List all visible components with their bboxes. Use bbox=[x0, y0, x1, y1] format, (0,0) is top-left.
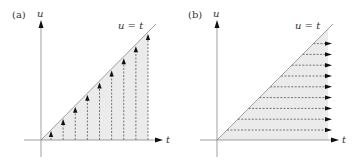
panel-b: (b) u t u = t bbox=[188, 8, 347, 157]
right-arrow-icon bbox=[325, 52, 332, 56]
right-arrow-icon bbox=[325, 74, 332, 78]
right-arrow-icon bbox=[325, 95, 332, 99]
panel-label: (b) bbox=[188, 9, 202, 20]
right-arrow-icon bbox=[325, 106, 332, 110]
u-axis-arrowhead bbox=[215, 20, 220, 28]
right-arrow-icon bbox=[325, 128, 332, 132]
panel-a: (a) u t u = t bbox=[12, 8, 171, 157]
line-label: u = t bbox=[295, 20, 321, 31]
t-axis-label: t bbox=[166, 134, 171, 145]
t-axis-label: t bbox=[342, 134, 347, 145]
panel-label: (a) bbox=[12, 9, 26, 20]
right-arrow-icon bbox=[325, 117, 332, 121]
right-arrow-icon bbox=[325, 41, 332, 45]
integration-region-diagram: (a) u t u = t (b) u t u = t bbox=[0, 0, 362, 165]
u-axis-label: u bbox=[213, 8, 219, 19]
u-axis-label: u bbox=[37, 8, 43, 19]
line-label: u = t bbox=[118, 20, 144, 31]
t-axis-arrowhead bbox=[155, 138, 163, 143]
right-arrow-icon bbox=[325, 63, 332, 67]
right-arrow-icon bbox=[325, 85, 332, 89]
t-axis-arrowhead bbox=[331, 138, 339, 143]
u-axis-arrowhead bbox=[39, 20, 44, 28]
